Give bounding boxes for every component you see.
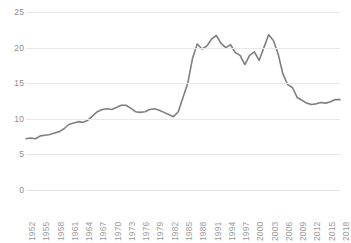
y-tick-label-0: 0 [2,186,24,195]
gridline-10 [26,119,340,120]
y-tick-label-10: 10 [2,115,24,124]
gridline-0 [26,190,340,191]
x-tick-1964: 1964 [77,195,89,243]
x-tick-1997: 1997 [234,195,246,243]
x-tick-2006: 2006 [277,195,289,243]
x-tick-2012: 2012 [305,195,317,243]
x-tick-1988: 1988 [191,195,203,243]
x-tick-2003: 2003 [263,195,275,243]
gridline-25 [26,12,340,13]
x-tick-1979: 1979 [148,195,160,243]
x-tick-1967: 1967 [91,195,103,243]
x-tick-1976: 1976 [134,195,146,243]
x-tick-1958: 1958 [49,195,61,243]
x-tick-label: 2018 [342,222,351,241]
x-tick-1970: 1970 [106,195,118,243]
x-tick-2015: 2015 [320,195,332,243]
x-tick-1973: 1973 [120,195,132,243]
plot-area [26,12,340,190]
x-tick-1952: 1952 [20,195,32,243]
y-tick-label-5: 5 [2,150,24,159]
x-tick-1982: 1982 [163,195,175,243]
x-tick-1991: 1991 [206,195,218,243]
data-line [26,35,340,139]
y-tick-label-15: 15 [2,79,24,88]
x-tick-2018: 2018 [334,195,346,243]
x-tick-1994: 1994 [220,195,232,243]
gridline-20 [26,48,340,49]
x-tick-1985: 1985 [177,195,189,243]
gridline-5 [26,154,340,155]
series-line [26,12,340,190]
x-tick-1961: 1961 [63,195,75,243]
x-tick-1955: 1955 [34,195,46,243]
x-axis: 1952195519581961196419671970197319761979… [26,192,340,243]
gridline-15 [26,83,340,84]
y-tick-label-20: 20 [2,44,24,53]
x-tick-2009: 2009 [291,195,303,243]
y-tick-label-25: 25 [2,8,24,17]
x-tick-2000: 2000 [248,195,260,243]
